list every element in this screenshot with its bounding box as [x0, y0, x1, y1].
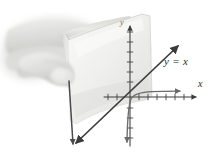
figure-svg [0, 0, 211, 160]
figure-container: y = x x y [0, 0, 211, 160]
x-axis-label: x [198, 79, 202, 89]
y-axis-label: y [120, 19, 124, 27]
line-label-y-equals-x: y = x [164, 56, 188, 67]
